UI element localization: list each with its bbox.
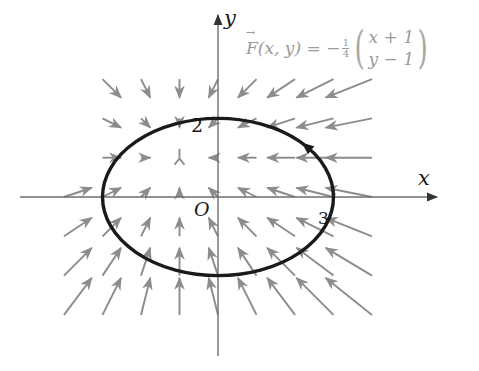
field-arrow [267,188,295,197]
fraction-denominator: 4 [343,49,349,59]
field-arrow [238,218,257,237]
field-arrow [141,188,150,197]
fraction-numerator: 1 [343,38,349,48]
field-arrow [64,188,92,197]
field-arrow [267,218,295,237]
field-arrow [103,278,122,315]
field-arrow [238,79,257,98]
formula-args: (x, y) = − [258,38,341,58]
field-arrow [209,79,218,98]
field-arrow [326,118,372,127]
field-arrow [209,248,218,276]
field-arrow [103,248,122,276]
x-intercept-label: 3 [318,208,329,228]
field-arrow [103,188,122,197]
y-intercept-label: 2 [191,114,203,136]
field-arrow [326,218,372,237]
field-arrow [238,188,257,197]
field-arrow [326,79,372,98]
field-arrow [238,278,257,315]
formula-lhs: F(x, y) = − [246,38,340,58]
right-paren: ) [417,26,427,70]
formula-fraction: 1 4 [342,38,349,59]
field-arrow [141,79,150,98]
field-arrow [141,218,150,237]
field-arrow [267,278,295,315]
left-paren: ( [355,26,365,70]
field-arrow [64,218,92,237]
formula-vector: x + 1 y − 1 [369,26,414,70]
field-arrow [103,79,122,98]
origin-label: O [194,198,210,220]
y-axis-label: y [224,6,236,30]
vector-arrow-icon: F [246,38,258,58]
field-arrow [141,118,150,127]
field-arrow [209,188,218,197]
zero-vector-mark [175,149,185,165]
field-arrow [297,278,334,315]
field-arrow [297,79,334,98]
field-arrow [141,278,150,315]
formula-row-1: x + 1 [369,26,414,48]
field-arrow [209,218,218,237]
field-arrow [209,278,218,315]
field-arrow [326,248,372,276]
vector-field-formula: F(x, y) = − 1 4 ( x + 1 y − 1 ) [246,26,431,70]
field-arrow [326,278,372,315]
formula-row-2: y − 1 [369,48,414,70]
field-arrow [103,118,122,127]
field-arrow [267,79,295,98]
x-axis-label: x [418,166,430,190]
field-arrow [64,248,92,276]
field-arrow [64,278,92,315]
